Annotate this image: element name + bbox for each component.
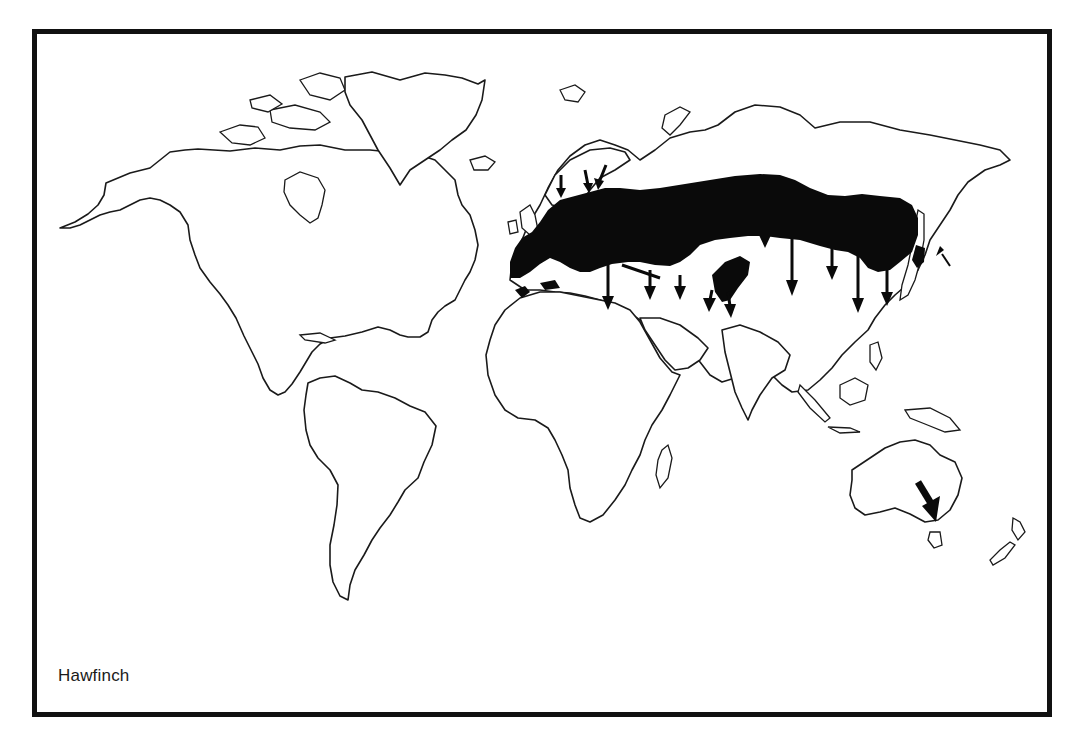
species-label: Hawfinch xyxy=(58,666,130,686)
svalbard xyxy=(560,85,585,102)
arctic-island xyxy=(300,73,345,100)
australia xyxy=(850,440,962,522)
ireland xyxy=(508,220,518,234)
java xyxy=(828,427,860,433)
new-zealand-south xyxy=(990,542,1015,565)
arctic-island xyxy=(270,105,330,130)
borneo xyxy=(840,378,868,405)
arctic-islands xyxy=(220,125,265,145)
south-america xyxy=(304,376,436,600)
sumatra xyxy=(798,385,830,422)
new-zealand-north xyxy=(1012,518,1025,540)
new-guinea xyxy=(905,408,960,432)
tasmania xyxy=(928,532,942,548)
novaya-zemlya xyxy=(662,107,690,135)
madagascar xyxy=(656,445,672,488)
iceland xyxy=(470,156,495,170)
philippines xyxy=(870,342,882,370)
north-america xyxy=(60,145,478,395)
world-map xyxy=(0,0,1073,752)
